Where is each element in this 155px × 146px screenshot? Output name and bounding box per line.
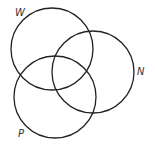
label-w: W: [15, 7, 26, 18]
venn-diagram: W N P: [0, 0, 155, 146]
label-n: N: [137, 66, 145, 77]
label-p: P: [18, 128, 25, 139]
circle-p: [14, 56, 96, 138]
